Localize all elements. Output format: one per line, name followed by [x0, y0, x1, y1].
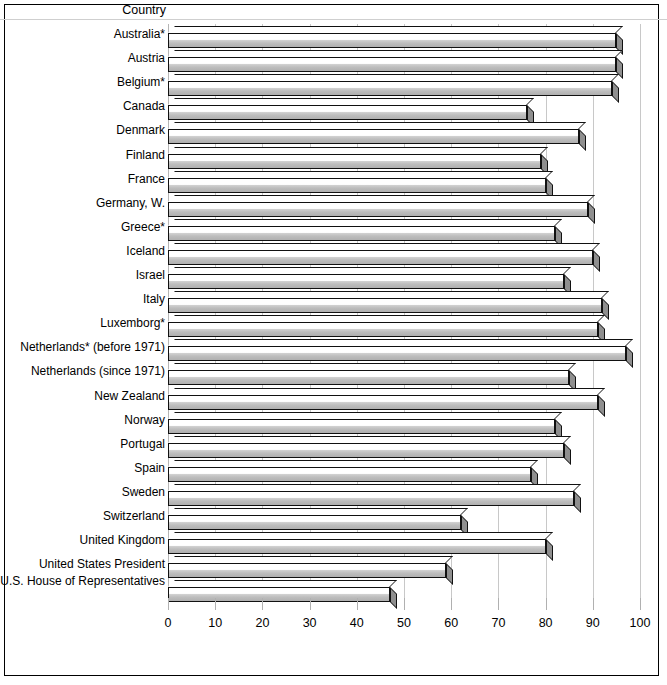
- bar-top-face: [168, 508, 468, 515]
- category-label: Greece*: [0, 221, 165, 234]
- bar-front-face: [168, 395, 598, 410]
- x-tick-50: [404, 598, 405, 610]
- bar: [168, 315, 605, 330]
- bar-top-face: [168, 580, 397, 587]
- category-label: Spain: [0, 462, 165, 475]
- bar-front-face: [168, 154, 541, 169]
- bar-top-face: [168, 243, 600, 250]
- x-tick-label-90: 90: [586, 616, 600, 630]
- bar-side-face: [626, 346, 633, 368]
- x-tick-label-60: 60: [444, 616, 458, 630]
- bar-top-face: [168, 484, 581, 491]
- bar-top-face: [168, 50, 623, 57]
- bar-side-face: [446, 563, 453, 585]
- bar-top-face: [168, 219, 562, 226]
- category-label: Italy: [0, 293, 165, 306]
- bar-front-face: [168, 178, 546, 193]
- category-label: Austria: [0, 52, 165, 65]
- bar-front-face: [168, 226, 555, 241]
- bar: [168, 74, 619, 89]
- bar-front-face: [168, 322, 598, 337]
- bar-side-face: [598, 395, 605, 417]
- category-label: Sweden: [0, 486, 165, 499]
- bar-front-face: [168, 370, 569, 385]
- bar-front-face: [168, 346, 626, 361]
- category-label: Iceland: [0, 245, 165, 258]
- bar: [168, 291, 609, 306]
- bar: [168, 363, 576, 378]
- bar: [168, 219, 562, 234]
- bar-front-face: [168, 250, 593, 265]
- category-label: United Kingdom: [0, 534, 165, 547]
- country-column-header: Country: [0, 3, 172, 17]
- bar-top-face: [168, 363, 576, 370]
- x-tick-40: [357, 598, 358, 610]
- x-tick-10: [215, 598, 216, 610]
- bar-front-face: [168, 563, 446, 578]
- bar: [168, 508, 468, 523]
- bar: [168, 243, 600, 258]
- category-label: Luxemborg*: [0, 317, 165, 330]
- bar-front-face: [168, 539, 546, 554]
- bar-front-face: [168, 467, 531, 482]
- category-label: Portugal: [0, 438, 165, 451]
- bar-top-face: [168, 412, 562, 419]
- bar-front-face: [168, 274, 564, 289]
- x-tick-label-30: 30: [303, 616, 317, 630]
- bar: [168, 98, 534, 113]
- bar-front-face: [168, 105, 527, 120]
- category-label: Norway: [0, 414, 165, 427]
- category-label: Netherlands* (before 1971): [0, 341, 165, 354]
- bar: [168, 122, 586, 137]
- x-tick-label-20: 20: [255, 616, 269, 630]
- bar-top-face: [168, 291, 609, 298]
- bar-front-face: [168, 515, 461, 530]
- plot-area: [168, 24, 640, 610]
- category-label: Israel: [0, 269, 165, 282]
- x-tick-90: [593, 598, 594, 610]
- bar-top-face: [168, 315, 605, 322]
- gridline-100: [640, 24, 641, 610]
- bar-top-face: [168, 460, 538, 467]
- category-label: Denmark: [0, 124, 165, 137]
- category-label: New Zealand: [0, 390, 165, 403]
- bar-front-face: [168, 33, 616, 48]
- bar-side-face: [612, 81, 619, 103]
- category-label: France: [0, 173, 165, 186]
- chart-page: Country Australia*AustriaBelgium*CanadaD…: [0, 0, 667, 685]
- bar-side-face: [390, 587, 397, 609]
- x-tick-label-10: 10: [208, 616, 222, 630]
- bar-front-face: [168, 443, 564, 458]
- bar-top-face: [168, 556, 453, 563]
- bar-side-face: [574, 491, 581, 513]
- x-tick-80: [546, 598, 547, 610]
- bar-side-face: [593, 250, 600, 272]
- category-label: U.S. House of Representatives: [0, 575, 165, 588]
- bar: [168, 580, 397, 595]
- x-axis: 0102030405060708090100: [168, 610, 640, 644]
- bar-top-face: [168, 388, 605, 395]
- x-tick-label-40: 40: [350, 616, 364, 630]
- bar: [168, 50, 623, 65]
- bar-top-face: [168, 171, 553, 178]
- bar-front-face: [168, 298, 602, 313]
- category-label: Switzerland: [0, 510, 165, 523]
- bar-front-face: [168, 129, 579, 144]
- x-tick-100: [640, 598, 641, 610]
- bar-top-face: [168, 98, 534, 105]
- bar-front-face: [168, 57, 616, 72]
- bar: [168, 460, 538, 475]
- bar: [168, 484, 581, 499]
- bar-front-face: [168, 419, 555, 434]
- x-tick-30: [310, 598, 311, 610]
- x-tick-label-70: 70: [491, 616, 505, 630]
- x-tick-label-50: 50: [397, 616, 411, 630]
- category-label: Finland: [0, 149, 165, 162]
- bar: [168, 388, 605, 403]
- x-tick-20: [262, 598, 263, 610]
- bar-front-face: [168, 202, 588, 217]
- bar-side-face: [546, 539, 553, 561]
- bar-side-face: [579, 129, 586, 151]
- bar: [168, 412, 562, 427]
- bar-top-face: [168, 436, 571, 443]
